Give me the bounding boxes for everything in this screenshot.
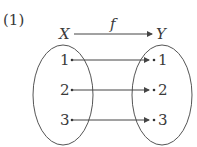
codomain-dot-1 xyxy=(153,59,156,62)
codomain-dot-2 xyxy=(153,89,156,92)
domain-element-3: 3 xyxy=(60,113,70,128)
problem-number: (1) xyxy=(3,13,24,28)
domain-element-1: 1 xyxy=(60,53,70,68)
codomain-element-1: 1 xyxy=(158,53,168,68)
codomain-dot-3 xyxy=(153,119,156,122)
domain-element-2: 2 xyxy=(60,83,70,98)
domain-set-label: X xyxy=(59,27,70,42)
codomain-set-label: Y xyxy=(156,27,166,42)
codomain-element-2: 2 xyxy=(158,83,168,98)
codomain-element-3: 3 xyxy=(158,113,168,128)
function-label: f xyxy=(110,17,116,32)
